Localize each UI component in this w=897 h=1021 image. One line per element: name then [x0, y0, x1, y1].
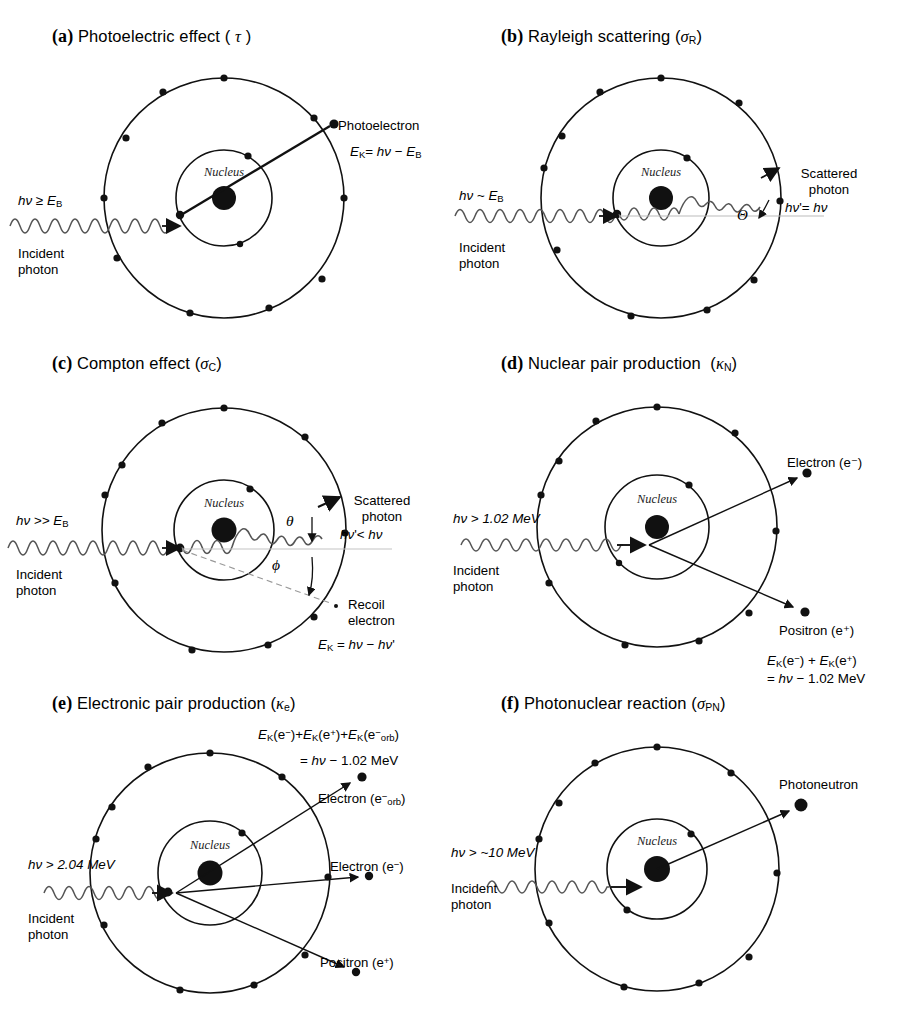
incident-photon-wave — [461, 539, 623, 551]
panel-c-recoil-electron-label: Recoil electron — [348, 597, 395, 628]
nucleus-label: Nucleus — [189, 838, 230, 852]
nucleus-label: Nucleus — [636, 834, 677, 848]
panel-d-positron-label: Positron (e⁺) — [779, 623, 854, 639]
panel-e-incident-photon-label: Incident photon — [28, 911, 74, 942]
positron-dot — [800, 607, 809, 616]
panel-a-incident-energy-sub: B — [56, 198, 62, 209]
panel-f-photoneutron-label: Photoneutron — [779, 777, 858, 793]
scattered-photon-wave-a — [619, 208, 679, 220]
panel-b-angle-label: Θ — [737, 208, 748, 224]
panel-c-incident-energy: hν >> EB — [16, 513, 69, 532]
panel-b-incident-photon-label: Incident photon — [459, 240, 505, 271]
scattered-photon-arrow — [761, 168, 779, 178]
positron-track — [649, 545, 793, 607]
panel-b-scattered-photon-label: Scattered photon — [779, 166, 879, 197]
incident-photon-wave — [10, 219, 172, 233]
nucleus-core — [645, 515, 669, 539]
panel-e-electronic-pair-production: (e) Electronic pair production (κe) Nucl… — [0, 685, 448, 1021]
incident-photon-wave — [487, 881, 609, 893]
panel-c-scattered-energy-equation: hν'< hν — [340, 527, 382, 543]
panel-d-electron-label: Electron (e⁻) — [787, 455, 862, 471]
scatter-angle-arc — [759, 200, 769, 218]
panel-a-diagram: Nucleus — [0, 18, 448, 358]
panel-c-compton-effect: (c) Compton effect (σC) Nucleus — [0, 345, 448, 685]
panel-c-incident-photon-label: Incident photon — [16, 567, 62, 598]
photon-interactions-figure: (a) Photoelectric effect ( τ ) Nucleus — [0, 0, 897, 1021]
photoelectron-label: Photoelectron — [338, 118, 419, 134]
photoneutron-dot — [795, 799, 808, 812]
nucleus-label: Nucleus — [636, 492, 677, 506]
incident-photon-wave — [8, 541, 174, 555]
panel-b-incident-energy-text: hν ~ E — [459, 188, 497, 203]
incident-photon-wave — [455, 210, 615, 223]
panel-f-photonuclear-reaction: (f) Photonuclear reaction (σPN) Nucleus — [449, 685, 897, 1021]
panel-c-theta-label: θ — [286, 513, 294, 529]
panel-f-incident-photon-label: Incident photon — [451, 881, 497, 912]
incident-photon-wave — [44, 887, 164, 900]
panel-d-incident-energy-text: hν > 1.02 MeV — [453, 511, 540, 526]
panel-d-incident-photon-label: Incident photon — [453, 563, 499, 594]
phi-arc-lower — [309, 557, 313, 595]
panel-c-phi-label: ϕ — [272, 557, 280, 573]
panel-b-incident-energy-sub: B — [497, 193, 503, 204]
panel-c-incident-energy-text: hν >> E — [16, 513, 62, 528]
panel-a-incident-energy-text: hν ≥ E — [18, 193, 56, 208]
panel-e-incident-energy: hν > 2.04 MeV — [28, 857, 115, 873]
panel-d-pair-energy-equation-line1: EK(e−) + EK(e+) — [767, 651, 857, 672]
orbital-electron-dot — [357, 772, 366, 781]
nucleus-label: Nucleus — [203, 165, 244, 179]
nucleus-core — [212, 518, 237, 543]
nucleus-label: Nucleus — [203, 496, 244, 510]
panel-f-incident-energy: hν > ~10 MeV — [451, 845, 534, 861]
nucleus-label: Nucleus — [640, 165, 681, 179]
panel-a-incident-photon-label: Incident photon — [18, 246, 64, 277]
panel-d-nuclear-pair-production: (d) Nuclear pair production (κN) Nucleus — [449, 345, 897, 685]
panel-c-recoil-energy-equation: EK = hν − hν' — [318, 637, 395, 656]
panel-f-incident-energy-text: hν > ~10 MeV — [451, 845, 534, 860]
panel-e-orbital-electron-label: Electron (e−orb) — [318, 789, 405, 810]
panel-c-scattered-photon-label: Scattered photon — [330, 493, 434, 524]
recoil-electron-dot-small — [334, 604, 338, 608]
nucleus-core — [198, 861, 223, 886]
panel-e-positron-label: Positron (e+) — [320, 953, 394, 971]
panel-e-triplet-energy-equation-line1: EK(e−)+EK(e+)+EK(e−orb) — [258, 725, 399, 746]
panel-a-incident-energy: hν ≥ EB — [18, 193, 62, 212]
panel-e-triplet-energy-equation-line2: = hν − 1.02 MeV — [300, 753, 398, 769]
panel-b-incident-energy: hν ~ EB — [459, 188, 504, 207]
panel-b-rayleigh-scattering: (b) Rayleigh scattering (σR) Nucleus — [449, 18, 897, 358]
electron-track — [649, 478, 797, 545]
panel-a-photoelectric-effect: (a) Photoelectric effect ( τ ) Nucleus — [0, 18, 448, 358]
panel-c-incident-energy-sub: B — [62, 518, 68, 529]
scattered-photon-wave-b — [232, 529, 322, 547]
positron-track — [176, 893, 344, 967]
panel-d-incident-energy: hν > 1.02 MeV — [453, 511, 540, 527]
panel-e-electron-label: Electron (e−) — [330, 857, 404, 875]
panel-e-incident-energy-text: hν > 2.04 MeV — [28, 857, 115, 872]
nucleus-core — [649, 186, 673, 210]
panel-b-scattered-energy-equation: hν'= hν — [785, 200, 827, 216]
panel-a-kinetic-energy-equation: EK= hν − EB — [350, 144, 422, 163]
